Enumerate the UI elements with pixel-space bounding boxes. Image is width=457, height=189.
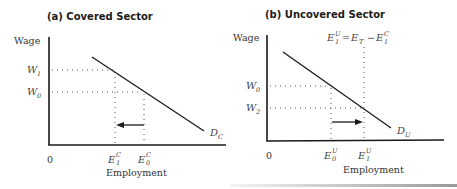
panel-a-origin-label: 0 bbox=[47, 154, 53, 165]
panel-a-demand-curve bbox=[92, 57, 204, 131]
panel-b-equation: E 1 U = E T − E 1 C bbox=[326, 30, 389, 46]
svg-text:2: 2 bbox=[255, 108, 260, 116]
panel-b-w0-label: W 0 bbox=[246, 80, 260, 94]
panel-b-e0u-label: E 0 U bbox=[323, 147, 338, 163]
svg-text:0: 0 bbox=[256, 86, 260, 94]
svg-text:1: 1 bbox=[335, 38, 339, 46]
svg-text:C: C bbox=[146, 151, 151, 159]
panel-a-w1-label: W 1 bbox=[27, 64, 41, 78]
panel-b-title: (b) Uncovered Sector bbox=[265, 9, 385, 20]
bottom-divider bbox=[230, 184, 457, 187]
panel-uncovered-sector: (b) Uncovered Sector Wage E 1 U = E T − … bbox=[233, 9, 444, 175]
svg-text:1: 1 bbox=[116, 159, 120, 167]
panel-a-title: (a) Covered Sector bbox=[47, 11, 153, 22]
panel-b-arrowhead-icon bbox=[355, 119, 363, 125]
svg-text:−: − bbox=[367, 32, 375, 43]
panel-b-y-axis-label: Wage bbox=[233, 32, 260, 43]
svg-text:0: 0 bbox=[37, 92, 41, 100]
svg-text:E: E bbox=[326, 32, 335, 43]
svg-text:0: 0 bbox=[332, 155, 336, 163]
svg-text:E: E bbox=[350, 32, 359, 43]
panel-b-e1u-label: E 1 U bbox=[357, 147, 372, 163]
svg-text:E: E bbox=[323, 150, 332, 161]
svg-text:D: D bbox=[209, 127, 218, 138]
svg-text:1: 1 bbox=[384, 38, 388, 46]
panel-b-demand-label: D U bbox=[396, 125, 411, 139]
panel-b-w2-label: W 2 bbox=[246, 102, 260, 116]
svg-text:U: U bbox=[366, 147, 372, 155]
svg-text:E: E bbox=[375, 32, 384, 43]
panel-covered-sector: (a) Covered Sector Wage W 1 W 0 D C 0 bbox=[14, 11, 226, 178]
svg-text:1: 1 bbox=[366, 155, 370, 163]
svg-text:U: U bbox=[332, 147, 338, 155]
panel-a-arrowhead-icon bbox=[116, 122, 124, 128]
svg-text:1: 1 bbox=[37, 70, 41, 78]
svg-text:E: E bbox=[137, 154, 146, 165]
panel-a-w0-label: W 0 bbox=[27, 86, 41, 100]
panel-a-e0c-label: E 0 C bbox=[137, 151, 151, 167]
panel-b-origin-label: 0 bbox=[266, 150, 272, 161]
svg-text:C: C bbox=[116, 151, 121, 159]
panel-a-e1c-label: E 1 C bbox=[107, 151, 121, 167]
panel-b-x-axis bbox=[266, 140, 444, 141]
panel-a-demand-label: D C bbox=[209, 127, 223, 141]
svg-text:U: U bbox=[335, 30, 341, 38]
svg-text:D: D bbox=[396, 125, 405, 136]
svg-text:C: C bbox=[384, 30, 389, 38]
svg-text:C: C bbox=[218, 133, 223, 141]
panel-b-demand-curve bbox=[283, 52, 391, 128]
svg-text:E: E bbox=[357, 150, 366, 161]
svg-text:U: U bbox=[405, 131, 411, 139]
panel-b-x-axis-label: Employment bbox=[343, 164, 404, 175]
svg-text:E: E bbox=[107, 154, 116, 165]
svg-text:0: 0 bbox=[146, 159, 150, 167]
svg-text:T: T bbox=[359, 38, 364, 46]
panel-a-y-axis-label: Wage bbox=[14, 35, 41, 46]
svg-text:=: = bbox=[342, 32, 350, 43]
labor-market-diagram: (a) Covered Sector Wage W 1 W 0 D C 0 bbox=[0, 0, 457, 189]
panel-a-x-axis-label: Employment bbox=[106, 167, 167, 178]
